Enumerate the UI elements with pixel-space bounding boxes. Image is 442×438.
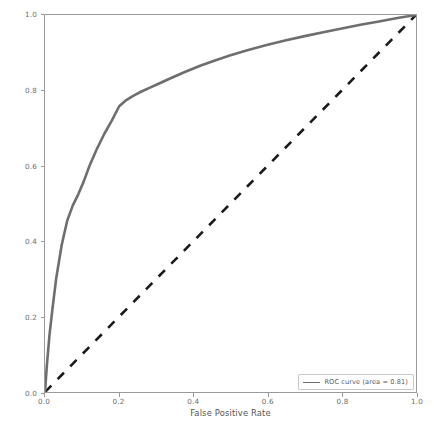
x-tick-mark (119, 393, 120, 397)
y-tick-label-text: 0.0 (25, 389, 37, 398)
x-tick-label: 0.2 (113, 397, 125, 406)
legend-label-roc-curve: ROC curve (area = 0.81) (324, 378, 408, 386)
plot-canvas (45, 15, 416, 392)
y-tick-label: 0.0 (37, 389, 49, 398)
x-tick-label: 0.6 (262, 397, 274, 406)
x-tick-mark (417, 393, 418, 397)
chance-diagonal-line (45, 15, 416, 392)
x-tick-label: 0.4 (187, 397, 199, 406)
x-tick-label: 0.8 (336, 397, 348, 406)
legend-line-swatch (303, 382, 320, 383)
y-tick-label: 0.6 (37, 161, 49, 170)
roc-curve-figure: True Positive Rate ROC curve (area = 0.8… (0, 0, 442, 438)
x-tick-mark (268, 393, 269, 397)
y-tick-label-text: 0.8 (25, 85, 37, 94)
y-tick-label-text: 0.6 (25, 161, 37, 170)
x-tick-label: 1.0 (411, 397, 423, 406)
x-tick-label: 0.0 (38, 397, 50, 406)
y-tick-label-text: 0.2 (25, 313, 37, 322)
x-axis-label: False Positive Rate (44, 408, 417, 418)
legend[interactable]: ROC curve (area = 0.81) (298, 374, 414, 390)
y-tick-label-text: 1.0 (25, 10, 37, 19)
x-tick-mark (193, 393, 194, 397)
y-tick-label: 1.0 (37, 10, 49, 19)
y-tick-label: 0.4 (37, 237, 49, 246)
plot-area: ROC curve (area = 0.81) (44, 14, 417, 393)
y-tick-label-text: 0.4 (25, 237, 37, 246)
y-tick-label: 0.8 (37, 85, 49, 94)
y-tick-label: 0.2 (37, 313, 49, 322)
x-tick-mark (342, 393, 343, 397)
